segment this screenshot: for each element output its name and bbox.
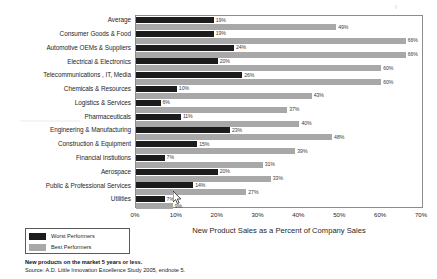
bar-value-label: 39% (297, 148, 307, 154)
footnotes: New products on the market 5 years or le… (25, 258, 325, 274)
bar-best (136, 148, 295, 154)
category-label: Logistics & Services (0, 99, 131, 107)
category-label: Chemicals & Resources (0, 85, 131, 93)
bar-best (136, 65, 381, 71)
category-label: Construction & Equipment (0, 140, 131, 148)
bar-value-label: 60% (383, 65, 393, 71)
bar-value-label: 24% (236, 44, 246, 50)
bar-best (136, 134, 332, 140)
x-axis-ticks: 0%10%20%30%40%50%60%70% (135, 210, 423, 222)
bar-best (136, 79, 381, 85)
bar-best (136, 93, 312, 99)
category-label: Engineering & Manufacturing (0, 126, 131, 134)
bar-best (136, 38, 406, 44)
bar-value-label: 49% (338, 24, 348, 30)
x-axis-tick-label: 70% (415, 210, 427, 220)
bar-row: 19%49% (136, 17, 422, 31)
bar-value-label: 31% (265, 161, 275, 167)
bar-value-label: 15% (199, 141, 209, 147)
bar-row: 11%40% (136, 114, 422, 128)
category-label: Utilities (0, 195, 131, 203)
x-axis-tick-label: 40% (292, 210, 304, 220)
bar-best (136, 121, 299, 127)
footnote-definition: New products on the market 5 years or le… (25, 258, 325, 266)
category-label: Financial Instiutions (0, 154, 131, 162)
mouse-cursor-icon (173, 191, 182, 204)
bar-value-label: 7% (167, 154, 174, 160)
chart-container: AverageConsumer Goods & FoodAutomotive O… (0, 0, 437, 279)
category-label: Public & Professional Services (0, 182, 131, 190)
bar-value-label: 6% (163, 99, 170, 105)
bar-worst (136, 86, 177, 92)
x-axis-tick-label: 0% (131, 210, 140, 220)
bar-worst (136, 169, 218, 175)
bar-best (136, 24, 336, 30)
bar-row: 19%66% (136, 31, 422, 45)
bar-row: 23%48% (136, 127, 422, 141)
legend-label-best: Best Performers (51, 244, 91, 250)
chart-legend: Worst Performers Best Performers (25, 228, 130, 254)
bar-worst (136, 182, 193, 188)
bar-value-label: 19% (216, 17, 226, 23)
bar-value-label: 27% (248, 189, 258, 195)
bar-value-label: 48% (334, 134, 344, 140)
bar-row: 7%31% (136, 155, 422, 169)
x-axis-tick-label: 30% (251, 210, 263, 220)
bar-worst (136, 114, 181, 120)
bar-worst (136, 141, 197, 147)
bar-value-label: 66% (408, 37, 418, 43)
bar-value-label: 26% (244, 72, 254, 78)
footnote-source: Source: A.D. Little Innovation Excellenc… (25, 266, 325, 274)
plot-area: 19%49%19%66%24%66%20%60%26%60%10%43%6%37… (135, 15, 423, 208)
category-label: Telecommunications , IT, Media (0, 71, 131, 79)
bar-value-label: 20% (220, 58, 230, 64)
legend-item-best: Best Performers (29, 242, 126, 252)
bar-worst (136, 196, 165, 202)
bar-value-label: 66% (408, 51, 418, 57)
bar-value-label: 19% (216, 30, 226, 36)
bar-worst (136, 58, 218, 64)
bar-value-label: 33% (273, 175, 283, 181)
bar-row: 10%43% (136, 86, 422, 100)
x-axis-tick-label: 60% (374, 210, 386, 220)
bar-row: 20%33% (136, 169, 422, 183)
bar-worst (136, 31, 214, 37)
legend-swatch-best (29, 244, 46, 251)
bar-value-label: 43% (314, 92, 324, 98)
bar-best (136, 189, 246, 195)
category-label: Automotive OEMs & Suppliers (0, 44, 131, 52)
bar-value-label: 20% (220, 168, 230, 174)
bar-worst (136, 17, 214, 23)
bar-worst (136, 100, 161, 106)
bar-value-label: 23% (232, 127, 242, 133)
bar-value-label: 11% (183, 113, 193, 119)
category-label: Aerospace (0, 168, 131, 176)
bar-value-label: 40% (301, 120, 311, 126)
bar-row: 26%60% (136, 72, 422, 86)
bar-value-label: 10% (179, 85, 189, 91)
bar-row: 15%39% (136, 141, 422, 155)
x-axis-tick-label: 50% (333, 210, 345, 220)
scan-artifact (395, 5, 397, 9)
bar-row: 24%66% (136, 45, 422, 59)
category-label: Consumer Goods & Food (0, 30, 131, 38)
bar-row: 20%60% (136, 58, 422, 72)
bar-value-label: 14% (195, 182, 205, 188)
x-axis-tick-label: 20% (211, 210, 223, 220)
legend-item-worst: Worst Performers (29, 231, 126, 241)
category-label: Average (0, 16, 131, 24)
legend-label-worst: Worst Performers (51, 233, 95, 239)
legend-swatch-worst (29, 233, 46, 240)
bar-best (136, 203, 173, 209)
bar-worst (136, 72, 242, 78)
bar-worst (136, 155, 165, 161)
scan-artifact (20, 120, 80, 122)
bar-best (136, 107, 287, 113)
bar-best (136, 52, 406, 58)
bar-rows: 19%49%19%66%24%66%20%60%26%60%10%43%6%37… (136, 16, 422, 207)
category-label: Electrical & Electronics (0, 58, 131, 66)
bar-worst (136, 45, 234, 51)
bar-value-label: 60% (383, 79, 393, 85)
bar-row: 6%37% (136, 100, 422, 114)
x-axis-title: New Product Sales as a Percent of Compan… (135, 226, 423, 235)
